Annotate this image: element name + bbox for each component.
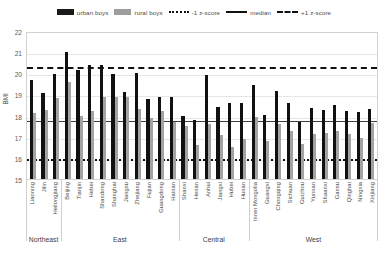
y-tick-18: 18 (4, 113, 22, 120)
bar-rural-boys (161, 111, 164, 179)
bar-group (202, 33, 214, 179)
bar-rural-boys (80, 116, 83, 179)
region-label-west: West (249, 229, 378, 249)
bar-group (120, 33, 132, 179)
urban-boys-swatch-icon (57, 9, 74, 15)
region-label-text: East (113, 236, 127, 243)
x-tick: Ningxia (355, 181, 367, 229)
x-tick-label: Jilin (41, 182, 47, 192)
legend-label-rural-boys: rural boys (134, 9, 162, 16)
x-tick-label: Ningxia (357, 182, 363, 202)
x-tick-label: Fujian (146, 182, 152, 198)
x-tick: Yunnan (308, 181, 320, 229)
y-tick-21: 21 (4, 50, 22, 57)
legend-item-plus-1-z-score: +1 z-score (277, 9, 331, 16)
x-tick-label: Shanxi (181, 182, 187, 200)
bar-group (295, 33, 307, 179)
x-tick: Beijing (61, 181, 73, 229)
region-label-northeast: Northeast (26, 229, 61, 249)
x-tick-label: Yunnan (310, 182, 316, 202)
x-tick-label: Hebei (88, 182, 94, 197)
bar-group (237, 33, 249, 179)
x-tick-label: Guangdong (158, 182, 164, 213)
x-tick-label: Jiangsu (123, 182, 129, 202)
x-tick: Heilongjiang (49, 181, 61, 229)
region-label-text: West (306, 236, 321, 243)
x-tick-label: Tianjin (76, 182, 82, 199)
bar-rural-boys (266, 141, 269, 179)
x-tick-label: Shaanxi (322, 182, 328, 203)
bar-rural-boys (126, 97, 129, 179)
chart-root: urban boys rural boys -1 z-score median … (0, 0, 388, 257)
bar-group (109, 33, 121, 179)
y-tick-17: 17 (4, 134, 22, 141)
bar-group (214, 33, 226, 179)
bar-group (97, 33, 109, 179)
region-label-text: Northeast (29, 236, 58, 243)
x-tick-label: Zhejiang (134, 182, 140, 205)
bar-rural-boys (313, 134, 316, 179)
x-tick-label: Sichuan (287, 182, 293, 203)
x-tick: Guangxi (261, 181, 273, 229)
bar-group (225, 33, 237, 179)
x-tick: Jilin (38, 181, 50, 229)
x-tick-label: Guizhou (299, 182, 305, 204)
bar-rural-boys (336, 131, 339, 179)
bar-rural-boys (243, 139, 246, 179)
x-tick-label: Gansu (334, 182, 340, 199)
bar-group (167, 33, 179, 179)
x-tick: Hebei (85, 181, 97, 229)
bar-rural-boys (173, 122, 176, 179)
legend-item-rural-boys: rural boys (114, 9, 162, 16)
x-tick: Sichuan (284, 181, 296, 229)
bar-group (132, 33, 144, 179)
dotted-line-swatch-icon (169, 11, 189, 13)
region-separator (179, 179, 180, 241)
x-tick: Guizhou (296, 181, 308, 229)
legend-item-urban-boys: urban boys (57, 9, 109, 16)
x-tick: Qinghai (343, 181, 355, 229)
x-tick: Hainan (167, 181, 179, 229)
solid-line-swatch-icon (226, 11, 247, 13)
x-tick: Shanxi (179, 181, 191, 229)
bar-group (179, 33, 191, 179)
x-tick-label: Shanghai (111, 182, 117, 207)
bar-group (307, 33, 319, 179)
x-tick-label: Hainan (170, 182, 176, 201)
x-tick-label: Henan (193, 182, 199, 199)
bar-group (62, 33, 74, 179)
bar-rural-boys (138, 109, 141, 179)
bar-group (74, 33, 86, 179)
x-tick-label: Qinghai (346, 182, 352, 202)
bar-rural-boys (231, 147, 234, 179)
x-tick-label: Jiangxi (217, 182, 223, 200)
bar-rural-boys (301, 144, 304, 179)
y-tick-20: 20 (4, 71, 22, 78)
bar-rural-boys (255, 117, 258, 179)
chart-legend: urban boys rural boys -1 z-score median … (0, 4, 388, 20)
bar-group (272, 33, 284, 179)
x-tick: Shanghai (108, 181, 120, 229)
x-tick: Gansu (331, 181, 343, 229)
bar-rural-boys (278, 124, 281, 179)
rural-boys-swatch-icon (114, 9, 131, 15)
x-tick: Chongqing (272, 181, 284, 229)
region-group-band: NortheastEastCentralWest (26, 229, 378, 249)
bar-group (27, 33, 39, 179)
x-tick-label: Xinjiang (369, 182, 375, 203)
x-axis-tick-labels: LiaoningJilinHeilongjiangBeijingTianjinH… (26, 181, 378, 229)
y-tick-19: 19 (4, 92, 22, 99)
bar-rural-boys (208, 124, 211, 179)
legend-item-minus-1-z-score: -1 z-score (169, 9, 221, 16)
bar-group (319, 33, 331, 179)
x-tick: Henan (190, 181, 202, 229)
bar-group (260, 33, 272, 179)
x-tick: Hunan (237, 181, 249, 229)
x-tick-label: Shandong (99, 182, 105, 209)
x-tick: Jiangsu (120, 181, 132, 229)
x-tick-label: Hubei (228, 182, 234, 197)
bar-rural-boys (360, 138, 363, 179)
bar-group (39, 33, 51, 179)
dashed-line-swatch-icon (277, 11, 298, 13)
bar-rural-boys (68, 82, 71, 179)
